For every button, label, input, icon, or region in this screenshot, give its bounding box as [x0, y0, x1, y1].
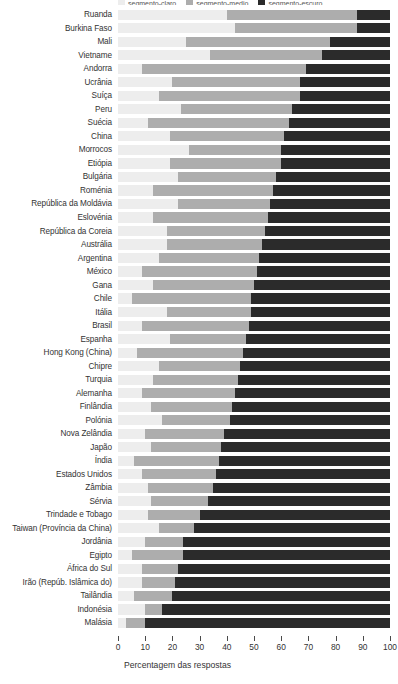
- bar-row: Jordânia: [0, 535, 398, 549]
- category-label: Mali: [0, 36, 112, 47]
- stacked-bar: [118, 239, 390, 249]
- legend-item: segmento-claro: [118, 0, 176, 5]
- bar-segment-mid: [145, 537, 183, 547]
- bar-segment-light: [118, 280, 153, 290]
- bar-segment-mid: [126, 618, 145, 628]
- category-label: Nova Zelândia: [0, 428, 112, 439]
- legend-swatch-icon: [258, 0, 265, 5]
- x-axis-tick: [336, 636, 337, 641]
- x-axis-tick-label: 0: [116, 642, 121, 652]
- x-axis-tick-label: 20: [168, 642, 177, 652]
- stacked-bar: [118, 64, 390, 74]
- bar-segment-light: [118, 415, 162, 425]
- bar-segment-light: [118, 483, 148, 493]
- bar-row: Alemanha: [0, 386, 398, 400]
- bar-segment-dark: [221, 442, 390, 452]
- bar-segment-dark: [216, 469, 390, 479]
- stacked-bar: [118, 415, 390, 425]
- bar-segment-dark: [219, 456, 390, 466]
- bar-segment-mid: [153, 375, 237, 385]
- bar-row: Andorra: [0, 62, 398, 76]
- bar-row: Tailândia: [0, 589, 398, 603]
- stacked-bar: [118, 172, 390, 182]
- bar-row: Espanha: [0, 332, 398, 346]
- bar-segment-dark: [224, 429, 390, 439]
- bar-segment-dark: [162, 604, 390, 614]
- bar-segment-dark: [265, 226, 390, 236]
- category-label: México: [0, 266, 112, 277]
- category-label: Morrocos: [0, 144, 112, 155]
- bar-segment-light: [118, 469, 142, 479]
- bar-segment-mid: [151, 496, 208, 506]
- bar-segment-light: [118, 537, 145, 547]
- stacked-bar: [118, 577, 390, 587]
- bar-segment-light: [118, 145, 189, 155]
- bar-segment-dark: [300, 77, 390, 87]
- bar-segment-mid: [178, 199, 270, 209]
- bar-segment-dark: [194, 523, 390, 533]
- bar-segment-dark: [262, 239, 390, 249]
- bar-segment-mid: [137, 348, 243, 358]
- bar-segment-mid: [181, 104, 293, 114]
- category-label: Ruanda: [0, 9, 112, 20]
- category-label: Zâmbia: [0, 482, 112, 493]
- legend-label: segmento-escuro: [268, 0, 322, 5]
- bar-segment-dark: [145, 618, 390, 628]
- bar-row: Peru: [0, 103, 398, 117]
- stacked-bar: [118, 293, 390, 303]
- bar-segment-mid: [235, 23, 357, 33]
- stacked-bar: [118, 496, 390, 506]
- bar-segment-light: [118, 199, 178, 209]
- stacked-bar: [118, 118, 390, 128]
- stacked-bar: [118, 226, 390, 236]
- bar-segment-mid: [132, 293, 252, 303]
- stacked-bar: [118, 510, 390, 520]
- stacked-bar-chart: segmento-clarosegmento-mediosegmento-esc…: [0, 0, 398, 684]
- category-label: Peru: [0, 104, 112, 115]
- bar-segment-dark: [213, 483, 390, 493]
- category-label: Roménia: [0, 185, 112, 196]
- bar-row: Suécia: [0, 116, 398, 130]
- bar-segment-mid: [159, 361, 241, 371]
- bar-segment-mid: [172, 77, 300, 87]
- bar-row: Vietname: [0, 49, 398, 63]
- bar-row: China: [0, 130, 398, 144]
- bar-segment-light: [118, 266, 142, 276]
- bar-row: Bulgária: [0, 170, 398, 184]
- x-axis: 0102030405060708090100: [118, 636, 390, 676]
- stacked-bar: [118, 23, 390, 33]
- x-axis-tick: [172, 636, 173, 641]
- bar-segment-light: [118, 131, 170, 141]
- category-label: Austrália: [0, 239, 112, 250]
- bar-segment-mid: [148, 483, 213, 493]
- bar-row: Turquia: [0, 373, 398, 387]
- category-label: Alemanha: [0, 388, 112, 399]
- stacked-bar: [118, 37, 390, 47]
- bar-row: Nova Zelândia: [0, 427, 398, 441]
- bar-segment-mid: [189, 145, 281, 155]
- bar-segment-mid: [170, 334, 246, 344]
- bar-row: África do Sul: [0, 562, 398, 576]
- bar-segment-dark: [281, 158, 390, 168]
- category-label: Jordânia: [0, 536, 112, 547]
- bar-segment-light: [118, 212, 153, 222]
- category-label: Finlândia: [0, 401, 112, 412]
- bar-segment-mid: [170, 158, 282, 168]
- bar-row: Hong Kong (China): [0, 346, 398, 360]
- category-label: China: [0, 131, 112, 142]
- bar-segment-mid: [167, 239, 262, 249]
- category-label: Egipto: [0, 550, 112, 561]
- bar-segment-mid: [134, 591, 172, 601]
- bar-segment-mid: [153, 185, 273, 195]
- bar-segment-dark: [330, 37, 390, 47]
- category-label: Índia: [0, 455, 112, 466]
- legend-item: segmento-medio: [186, 0, 248, 5]
- category-label: Brasil: [0, 320, 112, 331]
- x-axis-tick-label: 90: [358, 642, 367, 652]
- bar-segment-mid: [159, 253, 260, 263]
- stacked-bar: [118, 266, 390, 276]
- bar-segment-light: [118, 348, 137, 358]
- bar-segment-mid: [167, 226, 265, 236]
- stacked-bar: [118, 334, 390, 344]
- bar-row: Morrocos: [0, 143, 398, 157]
